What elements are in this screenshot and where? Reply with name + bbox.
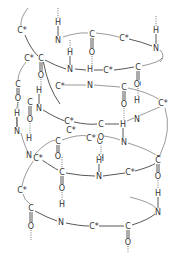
atom-label: H [96, 156, 102, 165]
atom-label: C [59, 168, 65, 177]
atom-label: N [153, 44, 159, 53]
atom-label: C [15, 80, 21, 89]
atom-label: C [27, 98, 33, 107]
atom-label: O [125, 238, 131, 247]
atom-label: C* [24, 54, 34, 63]
atom-label: N [26, 151, 32, 160]
atom-label: N [134, 115, 140, 124]
atom-label: N [36, 104, 42, 113]
atom-label: C [121, 83, 127, 92]
atom-label: H [59, 200, 65, 209]
atom-label: H [153, 26, 159, 35]
atom-label: O [15, 94, 21, 103]
backbone-bonds [17, 8, 168, 226]
atom-label: H [120, 120, 126, 129]
atom-label: O [55, 152, 61, 161]
atom-label: O [28, 222, 34, 231]
atom-label: O [38, 71, 44, 80]
atom-label: N [55, 36, 61, 45]
atom-label: C [98, 120, 104, 129]
atom-label: C* [66, 126, 76, 135]
atom-label: C [89, 30, 95, 39]
atom-label: C* [55, 82, 65, 91]
atom-label: C* [125, 168, 135, 177]
atom-label: H [134, 96, 140, 105]
atom-label: C* [33, 154, 43, 163]
atom-label: N [14, 127, 20, 136]
atom-label: C [135, 63, 141, 72]
atom-label: C* [64, 117, 74, 126]
atom-label: C* [158, 99, 168, 108]
atom-label: N [87, 81, 93, 90]
atom-label: C [28, 204, 34, 213]
atom-label: O [134, 80, 140, 89]
atom-label: C* [86, 134, 96, 143]
atom-label: C* [17, 186, 27, 195]
atom-label: C* [119, 34, 129, 43]
atom-label: H [14, 109, 20, 118]
atom-label: H [87, 65, 93, 74]
atom-label: O [121, 100, 127, 109]
atom-label: C [38, 54, 44, 63]
atom-label: O [89, 48, 95, 57]
atom-label: N [96, 172, 102, 181]
atom-label: N [121, 138, 127, 147]
atom-label: N [58, 218, 64, 227]
hydrogen-bonds [18, 8, 158, 253]
atom-label: O [155, 172, 161, 181]
atom-label: O [98, 133, 104, 142]
atom-label: C [55, 137, 61, 146]
atom-label: O [27, 115, 33, 124]
atom-label: H [26, 134, 32, 143]
atom-label: N [155, 208, 161, 217]
atom-label: O [59, 184, 65, 193]
alpha-helix-diagram: C*HNCOC*HNC*COHNHC*COCOHNCOC*NCOOHC*NC*C… [0, 0, 176, 255]
atom-label: H [36, 86, 42, 95]
atom-label: C [155, 156, 161, 165]
atom-label: N [67, 65, 73, 74]
atom-label: H [67, 48, 73, 57]
atom-label: C* [89, 222, 99, 231]
atom-label: C* [17, 26, 27, 35]
atom-label: C [125, 222, 131, 231]
atom-label: H [55, 18, 61, 27]
atom-label: C* [103, 66, 113, 75]
atom-label: H [155, 189, 161, 198]
